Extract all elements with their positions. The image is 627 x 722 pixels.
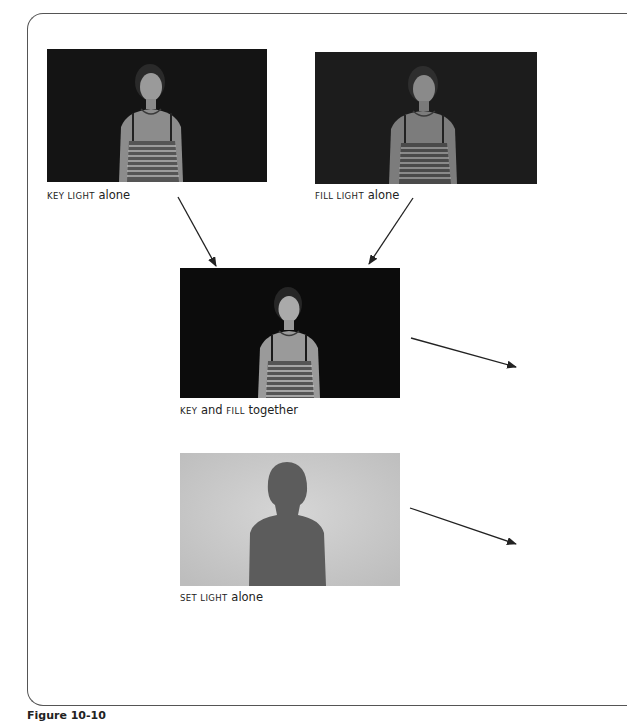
photo-set-light-alone <box>180 453 400 586</box>
photo-key-light-alone <box>47 49 267 182</box>
caption-fill-light-alone: FILL LIGHT alone <box>315 188 399 203</box>
figure-label: Figure 10-10 <box>27 709 106 722</box>
caption-key-light-alone: KEY LIGHT alone <box>47 188 130 203</box>
photo-key-and-fill-together <box>180 268 400 398</box>
caption-set-light-alone: SET LIGHT alone <box>180 590 263 605</box>
photo-fill-light-alone <box>315 52 537 184</box>
caption-key-and-fill-together: KEY and FILL together <box>180 403 298 418</box>
